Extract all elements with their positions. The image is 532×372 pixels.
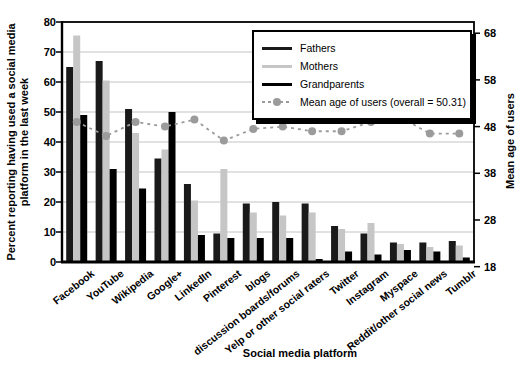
legend-label-grandparents: Grandparents [300, 78, 364, 90]
bar-mothers [368, 223, 375, 262]
legend-item-mean-age: Mean age of users (overall = 50.31) [262, 93, 462, 111]
mean-age-line-swatch [262, 101, 292, 103]
x-axis-title: Social media platform [180, 347, 420, 359]
mean-age-marker [73, 118, 81, 126]
bar-mothers [309, 213, 316, 263]
bar-grandparents [286, 238, 293, 262]
left-axis-title-line1: Percent reporting having used a social m… [5, 0, 18, 292]
bar-grandparents [345, 252, 352, 263]
bar-fathers [96, 61, 103, 262]
bar-mothers [456, 246, 463, 263]
bar-fathers [184, 184, 191, 262]
left-tick-label: 60 [22, 75, 56, 89]
bar-mothers [279, 216, 286, 263]
bar-mothers [338, 229, 345, 262]
bar-mothers [397, 244, 404, 262]
bar-grandparents [257, 238, 264, 262]
grandparents-line-swatch [262, 83, 292, 86]
bar-fathers [213, 234, 220, 263]
bar-grandparents [433, 252, 440, 263]
bar-grandparents [139, 189, 146, 263]
mean-age-marker [132, 118, 140, 126]
bar-fathers [361, 234, 368, 263]
right-tick-label: 58 [484, 73, 496, 87]
bar-grandparents [227, 238, 234, 262]
left-tick-label: 50 [22, 105, 56, 119]
right-axis-title: Mean age of users [504, 0, 516, 291]
mothers-line-swatch [262, 65, 292, 68]
bar-grandparents [404, 250, 411, 262]
bar-fathers [272, 202, 279, 262]
legend-item-fathers: Fathers [262, 39, 462, 57]
legend-item-mothers: Mothers [262, 57, 462, 75]
bar-grandparents [169, 112, 176, 262]
legend-label-fathers: Fathers [300, 42, 336, 54]
bar-mothers [426, 247, 433, 262]
left-tick-label: 0 [22, 255, 56, 269]
mean-age-marker [190, 116, 198, 124]
left-tick-label: 20 [22, 195, 56, 209]
legend: Fathers Mothers Grandparents Mean age of… [252, 30, 472, 120]
bar-fathers [155, 159, 162, 263]
right-tick-label: 38 [484, 166, 496, 180]
right-tick-label: 18 [484, 260, 496, 274]
bar-fathers [66, 67, 73, 262]
right-tick-label: 28 [484, 213, 496, 227]
left-tick-label: 80 [22, 15, 56, 29]
bar-fathers [419, 243, 426, 263]
bar-fathers [331, 226, 338, 262]
bar-grandparents [80, 115, 87, 262]
left-tick-label: 40 [22, 135, 56, 149]
mean-age-marker [426, 130, 434, 138]
bar-mothers [191, 201, 198, 263]
right-tick-label: 48 [484, 120, 496, 134]
fathers-line-swatch [262, 47, 292, 50]
mean-age-marker-icon [273, 98, 281, 106]
left-tick-label: 30 [22, 165, 56, 179]
legend-item-grandparents: Grandparents [262, 75, 462, 93]
mean-age-marker [308, 127, 316, 135]
right-tick-label: 68 [484, 26, 496, 40]
bar-fathers [125, 109, 132, 262]
mean-age-marker [249, 125, 257, 133]
legend-label-mean-age: Mean age of users (overall = 50.31) [300, 96, 466, 108]
bar-mothers [73, 36, 80, 263]
left-tick-label: 10 [22, 225, 56, 239]
bar-fathers [302, 204, 309, 263]
mean-age-marker [102, 132, 110, 140]
mean-age-marker [455, 130, 463, 138]
bar-fathers [390, 243, 397, 263]
mean-age-marker [279, 123, 287, 131]
bar-fathers [449, 241, 456, 262]
bar-grandparents [198, 235, 205, 262]
mean-age-marker [338, 127, 346, 135]
legend-label-mothers: Mothers [300, 60, 338, 72]
mean-age-marker [161, 123, 169, 131]
bar-mothers [250, 213, 257, 263]
bar-mothers [220, 169, 227, 262]
mean-age-marker [220, 137, 228, 145]
bar-mothers [132, 133, 139, 262]
left-tick-label: 70 [22, 45, 56, 59]
bar-fathers [243, 204, 250, 263]
bar-mothers [103, 81, 110, 263]
bar-grandparents [110, 169, 117, 262]
chart-figure: Percent reporting having used a social m… [0, 0, 532, 372]
bar-mothers [162, 150, 169, 263]
